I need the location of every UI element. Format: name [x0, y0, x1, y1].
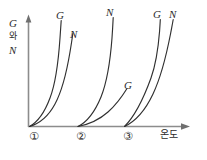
curve-n-group-1	[30, 34, 73, 127]
curve-label-g-group-2: G	[124, 80, 132, 91]
x-tick-label-2: ②	[76, 131, 86, 142]
x-tick-label-3: ③	[123, 131, 133, 142]
y-axis-label-wa: 와	[9, 32, 17, 41]
curve-label-g-group-1: G	[56, 10, 64, 21]
y-axis-label-n: N	[9, 45, 16, 56]
curve-n-group-2	[78, 18, 113, 127]
curve-g-group-3	[125, 20, 161, 127]
free-energy-vs-temperature-diagram: G 와 N 온도 G N N G G N ① ② ③	[0, 0, 207, 160]
curve-label-n-group-1: N	[70, 29, 77, 40]
y-axis-label-g: G	[9, 18, 17, 29]
curve-n-group-3	[125, 20, 174, 127]
curve-label-n-group-2: N	[106, 7, 113, 18]
x-axis-arrowhead	[181, 123, 190, 130]
curve-label-n-group-3: N	[169, 9, 176, 20]
y-axis-arrowhead	[26, 15, 32, 23]
curve-label-g-group-3: G	[153, 9, 161, 20]
x-axis-label: 온도	[160, 130, 178, 140]
curve-g-group-1	[30, 21, 62, 127]
x-tick-label-1: ①	[29, 131, 39, 142]
